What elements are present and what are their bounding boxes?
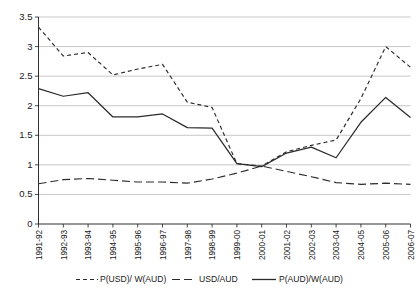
y-axis-ticks: [35, 17, 39, 224]
y-axis-tick-label: 0: [27, 218, 32, 229]
x-axis-tick-label: 1999-00: [233, 230, 242, 260]
legend-label-2: USD/AUD: [199, 274, 238, 284]
legend-label-1: P(USD)/ W(AUD): [100, 274, 166, 284]
x-axis-tick-label: 1996-97: [159, 230, 168, 260]
x-axis-tick-label: 2006-07: [407, 230, 416, 260]
y-axis-tick-labels: 00.511.522.533.5: [19, 11, 32, 229]
series-line-2: [39, 166, 411, 184]
x-axis-tick-label: 2004-05: [357, 230, 366, 260]
x-axis-tick-label: 1997-98: [184, 230, 193, 260]
line-chart: 00.511.522.533.5 1991-921992-931993-9419…: [0, 0, 419, 294]
x-axis-tick-label: 2005-06: [382, 230, 391, 260]
legend-label-3: P(AUD)/W(AUD): [279, 274, 343, 284]
x-axis-tick-label: 2003-04: [332, 230, 341, 260]
x-axis-tick-labels: 1991-921992-931993-941994-951995-961996-…: [35, 230, 416, 260]
y-axis-tick-label: 1.5: [19, 129, 32, 140]
x-axis-tick-label: 2000-01: [258, 230, 267, 260]
x-axis-tick-label: 2002-03: [308, 230, 317, 260]
chart-container: 00.511.522.533.5 1991-921992-931993-9419…: [0, 0, 419, 294]
chart-legend: P(USD)/ W(AUD)USD/AUDP(AUD)/W(AUD): [76, 274, 343, 284]
y-axis-tick-label: 3.5: [19, 11, 32, 22]
x-axis-ticks: [39, 224, 411, 228]
series-line-3: [39, 89, 411, 167]
x-axis-tick-label: 1995-96: [134, 230, 143, 260]
x-axis-tick-label: 1991-92: [35, 230, 44, 260]
y-axis-tick-label: 1: [27, 159, 32, 170]
x-axis-tick-label: 1992-93: [60, 230, 69, 260]
x-axis-tick-label: 1994-95: [109, 230, 118, 260]
y-axis-tick-label: 3: [27, 41, 32, 52]
y-axis-tick-label: 0.5: [19, 188, 32, 199]
x-axis-tick-label: 1998-99: [208, 230, 217, 260]
gridlines: [39, 17, 411, 194]
x-axis-tick-label: 1993-94: [84, 230, 93, 260]
y-axis-tick-label: 2: [27, 100, 32, 111]
x-axis-tick-label: 2001-02: [283, 230, 292, 260]
y-axis-tick-label: 2.5: [19, 70, 32, 81]
